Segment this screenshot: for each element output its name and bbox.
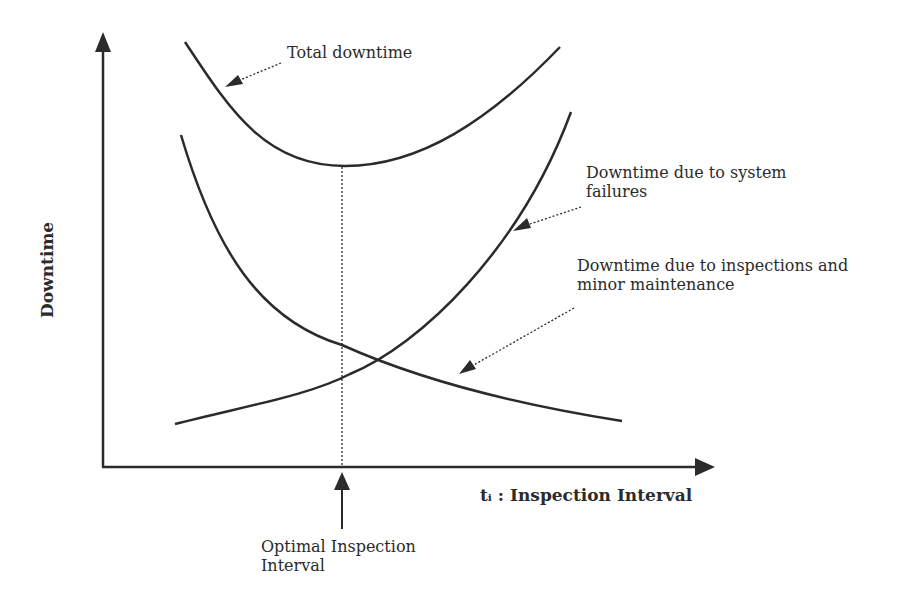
label-failure-downtime-line2: failures xyxy=(586,182,647,201)
x-axis-arrowhead-icon xyxy=(695,458,715,476)
label-failure-downtime-line1: Downtime due to system xyxy=(586,163,787,182)
curve-failure-downtime xyxy=(175,112,571,424)
callout-inspection-downtime xyxy=(459,308,574,374)
diagram-graphics xyxy=(0,0,917,609)
label-optimal-line2: Interval xyxy=(261,556,325,575)
y-axis-label: Downtime xyxy=(38,222,57,318)
x-axis-label: tᵢ : Inspection Interval xyxy=(480,486,692,505)
y-axis-arrowhead-icon xyxy=(95,32,111,52)
label-inspection-downtime-line2: minor maintenance xyxy=(577,275,735,294)
optimal-arrow xyxy=(334,472,350,529)
label-optimal-line1: Optimal Inspection xyxy=(261,537,416,556)
downtime-inspection-diagram: Total downtime Downtime due to system fa… xyxy=(0,0,917,609)
callout-total-downtime xyxy=(225,63,281,87)
label-total-downtime: Total downtime xyxy=(287,43,412,62)
label-inspection-downtime-line1: Downtime due to inspections and xyxy=(577,256,848,275)
optimal-arrowhead-icon xyxy=(334,472,350,490)
y-axis xyxy=(95,32,111,467)
callout-arrowhead-icon xyxy=(459,360,476,374)
x-axis xyxy=(102,458,715,476)
curve-inspection-downtime xyxy=(181,135,622,421)
callout-arrowhead-icon xyxy=(225,75,243,87)
